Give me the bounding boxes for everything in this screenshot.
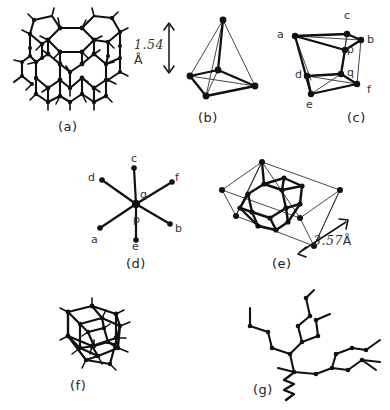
newman-svg bbox=[88, 158, 184, 250]
caption-d: (d) bbox=[126, 256, 146, 271]
adamantane-cage-panel bbox=[58, 298, 142, 376]
cell-edge-unit: Å bbox=[343, 233, 352, 248]
caption-e: (e) bbox=[272, 256, 292, 271]
double-tetrahedron-panel bbox=[285, 14, 375, 114]
angstrom-unit: Å bbox=[134, 52, 143, 67]
label-c-vertex-e: e bbox=[306, 98, 313, 111]
label-c-vertex-b: b bbox=[367, 33, 374, 46]
label-d-vertex-a: a bbox=[91, 233, 98, 246]
caption-c: (c) bbox=[347, 110, 366, 125]
caption-b: (b) bbox=[198, 110, 218, 125]
label-d-center-q: q bbox=[140, 188, 147, 201]
tetrahedron-svg bbox=[180, 14, 260, 106]
caption-f: (f) bbox=[70, 378, 86, 393]
diamond-lattice-svg bbox=[8, 6, 133, 111]
label-c-vertex-a: a bbox=[277, 28, 284, 41]
caption-a: (a) bbox=[58, 119, 78, 134]
cell-edge-label: 3.57Å bbox=[313, 233, 352, 248]
label-c-vertex-c: c bbox=[344, 9, 350, 22]
diamond-lattice-panel bbox=[8, 6, 133, 111]
label-d-vertex-e: e bbox=[132, 240, 139, 253]
newman-projection-panel bbox=[88, 158, 184, 250]
label-c-center-q: q bbox=[347, 66, 354, 79]
label-d-vertex-c: c bbox=[131, 152, 137, 165]
label-d-vertex-f: f bbox=[175, 171, 179, 184]
caption-g: (g) bbox=[253, 382, 273, 397]
label-d-vertex-d: d bbox=[88, 171, 95, 184]
double-tetrahedron-svg bbox=[285, 14, 375, 114]
label-c-vertex-f: f bbox=[367, 83, 371, 96]
double-arrow-icon bbox=[160, 20, 178, 76]
label-d-center-p: p bbox=[133, 213, 140, 226]
label-d-vertex-b: b bbox=[175, 222, 182, 235]
cell-edge-value: 3.57 bbox=[313, 233, 343, 248]
tetrahedron-panel bbox=[180, 14, 260, 106]
label-c-vertex-d: d bbox=[295, 68, 302, 81]
label-c-center-p: p bbox=[347, 43, 354, 56]
cage-svg bbox=[58, 298, 142, 376]
bond-length-arrow bbox=[160, 20, 178, 76]
